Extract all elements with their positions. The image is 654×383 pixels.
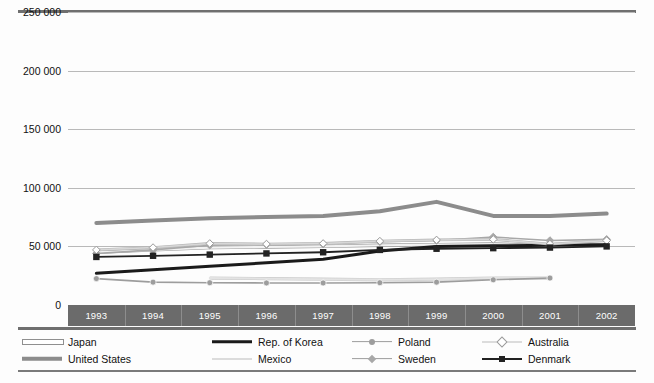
legend-line-icon — [212, 358, 252, 360]
y-axis-tick-label: 200 000 — [23, 65, 61, 77]
x-axis-separator — [522, 305, 523, 326]
series-point-marker — [490, 277, 496, 283]
legend-label: Japan — [68, 336, 97, 348]
series-point-marker — [93, 254, 99, 260]
y-axis-tick-label: 150 000 — [23, 123, 61, 135]
x-axis-separator — [408, 305, 409, 326]
x-axis-tick-label: 1993 — [68, 305, 125, 326]
x-axis-separator — [465, 305, 466, 326]
series-point-marker — [207, 251, 213, 257]
series-point-marker — [320, 249, 326, 255]
legend-marker-circle-icon — [369, 339, 375, 345]
series-point-marker — [433, 236, 441, 244]
series-point-marker — [320, 280, 326, 286]
legend-item-australia[interactable]: Australia — [482, 333, 632, 350]
legend-item-mexico[interactable]: Mexico — [212, 350, 352, 367]
series-point-marker — [603, 243, 609, 249]
legend-swatch-denmark — [482, 353, 522, 364]
x-axis-tick-label: 1996 — [238, 305, 295, 326]
x-axis-band: 1993199419951996199719981999200020012002 — [68, 305, 635, 326]
series-point-marker — [93, 276, 99, 282]
legend-label: Rep. of Korea — [258, 336, 323, 348]
legend-item-united-states[interactable]: United States — [22, 350, 212, 367]
legend-item-poland[interactable]: Poland — [352, 333, 482, 350]
legend-line-icon — [22, 356, 62, 361]
x-axis-tick-label: 1999 — [408, 305, 465, 326]
series-point-marker — [207, 280, 213, 286]
x-axis-separator — [295, 305, 296, 326]
legend-swatch-japan — [22, 336, 62, 347]
legend-label: Mexico — [258, 353, 291, 365]
series-point-marker — [547, 244, 553, 250]
series-point-marker — [377, 280, 383, 286]
legend-swatch-poland — [352, 336, 392, 347]
legend-item-denmark[interactable]: Denmark — [482, 350, 632, 367]
series-point-marker — [377, 247, 383, 253]
legend-line-icon — [22, 339, 64, 345]
legend-item-rep-of-korea[interactable]: Rep. of Korea — [212, 333, 352, 350]
series-united-states — [96, 202, 606, 223]
legend-label: Australia — [528, 336, 569, 348]
x-axis-tick-label: 1998 — [352, 305, 409, 326]
legend-swatch-rep-of-korea — [212, 336, 252, 347]
legend-label: Sweden — [398, 353, 436, 365]
legend-top-rule — [18, 327, 636, 330]
x-axis-separator — [238, 305, 239, 326]
legend-swatch-australia — [482, 336, 522, 347]
chart-legend: JapanUnited StatesRep. of KoreaMexicoPol… — [18, 333, 636, 367]
legend-swatch-mexico — [212, 353, 252, 364]
legend-marker-diamond-icon — [368, 354, 376, 362]
series-point-marker — [150, 279, 156, 285]
series-line — [96, 202, 606, 223]
x-axis-tick-label: 2001 — [522, 305, 579, 326]
x-axis-tick-label: 2000 — [465, 305, 522, 326]
x-axis-tick-label: 1997 — [295, 305, 352, 326]
x-axis-tick-label: 1994 — [125, 305, 182, 326]
frame-bottom-rule — [18, 370, 636, 372]
x-axis-tick-label: 1995 — [181, 305, 238, 326]
y-axis-tick-label: 50 000 — [29, 240, 61, 252]
legend-label: Denmark — [528, 353, 571, 365]
series-point-marker — [263, 250, 269, 256]
x-axis-tick-label: 2002 — [578, 305, 635, 326]
series-point-marker — [263, 280, 269, 286]
y-axis-tick-label: 250 000 — [23, 6, 61, 18]
chart-figure: 250 000200 000150 000100 00050 0000 1993… — [0, 0, 654, 383]
legend-marker-square-icon — [499, 356, 505, 362]
legend-label: United States — [68, 353, 131, 365]
x-axis-separator — [181, 305, 182, 326]
legend-swatch-united-states — [22, 353, 62, 364]
series-point-marker — [150, 253, 156, 259]
legend-marker-diamond-open-icon — [496, 336, 507, 347]
legend-item-japan[interactable]: Japan — [22, 333, 212, 350]
series-point-marker — [547, 275, 553, 281]
legend-item-sweden[interactable]: Sweden — [352, 350, 482, 367]
x-axis-separator — [352, 305, 353, 326]
y-axis-tick-label: 100 000 — [23, 182, 61, 194]
legend-swatch-sweden — [352, 353, 392, 364]
x-axis-separator — [578, 305, 579, 326]
series-point-marker — [434, 279, 440, 285]
legend-line-icon — [212, 340, 252, 344]
series-point-marker — [490, 245, 496, 251]
y-axis-tick-label: 0 — [55, 299, 61, 311]
x-axis-separator — [125, 305, 126, 326]
legend-label: Poland — [398, 336, 431, 348]
series-layer — [68, 12, 635, 305]
series-point-marker — [433, 246, 439, 252]
